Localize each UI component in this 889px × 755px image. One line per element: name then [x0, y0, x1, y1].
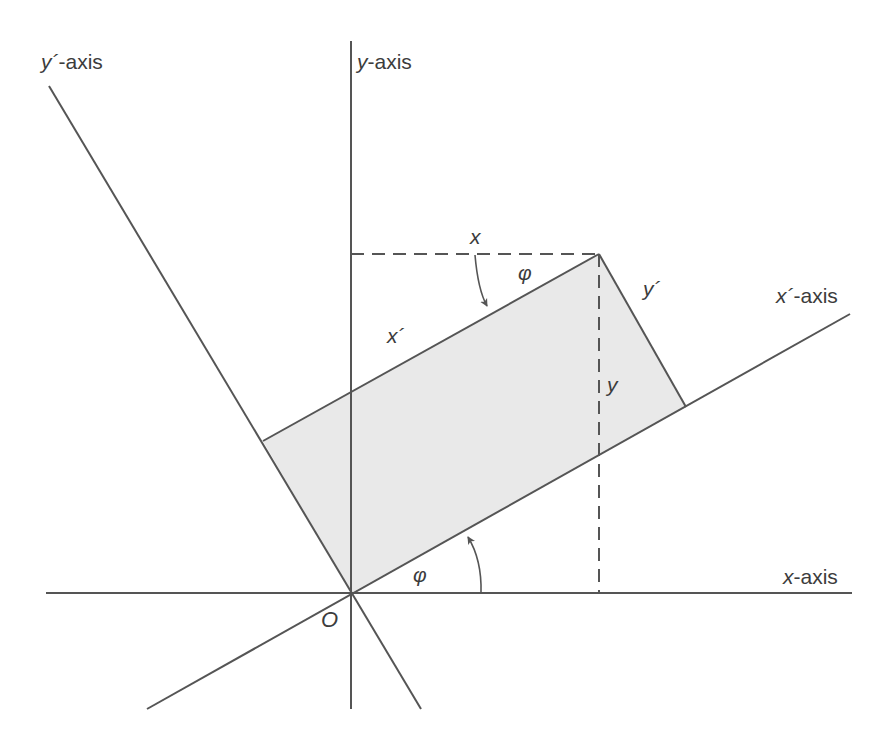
x-axis-label: x-axis [783, 566, 838, 587]
x-prime-axis-label: x´-axis [776, 285, 838, 306]
y-coordinate-label: y [607, 374, 618, 395]
angle-arc-bottom [468, 537, 481, 593]
shaded-rectangle [263, 254, 686, 593]
y-prime-axis-label: y´-axis [41, 51, 103, 72]
angle-phi-top-label: φ [518, 262, 532, 283]
origin-label: O [321, 609, 338, 631]
x-prime-coordinate-label: x´ [387, 325, 405, 346]
x-coordinate-label: x [470, 226, 481, 247]
angle-phi-bottom-label: φ [413, 564, 427, 585]
y-axis-label: y-axis [357, 51, 412, 72]
rotation-diagram [0, 0, 889, 755]
angle-arc-top [475, 255, 487, 306]
y-prime-coordinate-label: y´ [643, 278, 661, 299]
